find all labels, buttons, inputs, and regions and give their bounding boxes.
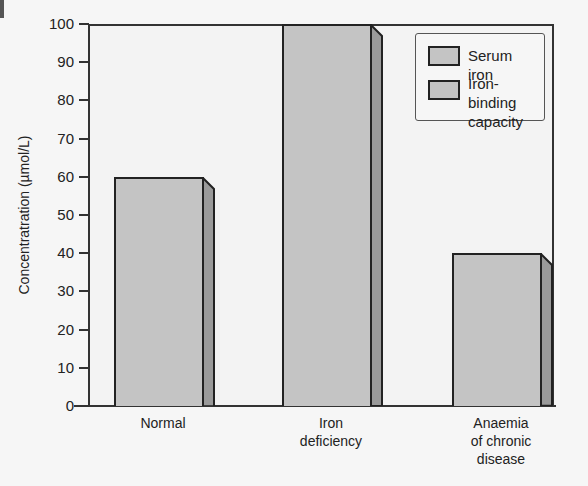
bar-side-face	[202, 177, 216, 406]
y-tick	[79, 252, 89, 254]
y-tick-label: 20	[40, 322, 74, 338]
bar-front-face	[114, 177, 204, 406]
y-tick-label: 60	[40, 169, 74, 185]
bar-front-face	[452, 253, 542, 406]
y-tick-label: 50	[40, 207, 74, 223]
y-tick-label: 30	[40, 283, 74, 299]
y-tick	[79, 176, 89, 178]
y-tick	[79, 61, 89, 63]
legend-item-iron-binding-capacity: Iron-bindingcapacity	[428, 74, 536, 131]
y-tick	[79, 214, 89, 216]
y-tick-label: 100	[40, 16, 74, 32]
x-category-label: Normal	[103, 414, 223, 432]
bar-normal	[114, 177, 216, 406]
legend: Serum iron Iron-bindingcapacity	[415, 33, 545, 121]
y-axis-title: Concentratration (µmol/L)	[16, 135, 32, 294]
bar-anaemia-of-chronic-disease	[452, 253, 554, 406]
y-tick	[79, 23, 89, 25]
y-tick	[79, 329, 89, 331]
y-tick-label: 10	[40, 360, 74, 376]
corner-mark	[0, 0, 4, 18]
bar-side-face	[540, 253, 554, 406]
y-tick-label: 0	[40, 398, 74, 414]
y-tick	[79, 367, 89, 369]
y-tick-label: 40	[40, 245, 74, 261]
bar-iron-deficiency	[282, 24, 384, 406]
y-tick	[79, 405, 89, 407]
y-tick-label: 90	[40, 54, 74, 70]
y-tick	[79, 99, 89, 101]
y-tick	[79, 290, 89, 292]
legend-swatch-serum-iron	[428, 46, 460, 66]
bar-front-face	[282, 24, 372, 406]
bar-side-face	[370, 24, 384, 406]
y-tick	[79, 138, 89, 140]
x-category-label: Anaemiaof chronicdisease	[441, 414, 561, 468]
legend-swatch-iron-binding-capacity	[428, 80, 460, 100]
legend-label-iron-binding-capacity: Iron-bindingcapacity	[468, 74, 536, 131]
y-tick-label: 80	[40, 92, 74, 108]
x-category-label: Irondeficiency	[271, 414, 391, 450]
y-tick-label: 70	[40, 131, 74, 147]
